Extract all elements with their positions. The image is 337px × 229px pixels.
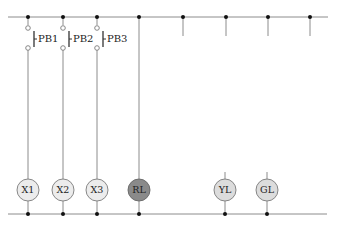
switch-terminal-icon [95,26,100,31]
node-dot-icon [223,212,227,216]
switch-label-pb3: PB3 [107,34,127,44]
node-dot-icon [137,15,141,19]
node-dot-icon [137,212,141,216]
switch-terminal-icon [26,46,31,51]
switch-terminal-icon [61,46,66,51]
load-label-x3: X3 [86,185,108,195]
switch-terminal-icon [95,46,100,51]
switch-label-pb1: PB1 [38,34,58,44]
load-label-x1: X1 [17,185,39,195]
load-label-gl: GL [256,185,278,195]
node-dot-icon [26,15,30,19]
node-dot-icon [95,212,99,216]
open-stubs-top [181,15,312,36]
node-dot-icon [61,212,65,216]
switch-terminal-icon [61,26,66,31]
node-dot-icon [308,15,312,19]
node-dot-icon [265,212,269,216]
load-label-rl: RL [128,185,150,195]
load-label-x2: X2 [52,185,74,195]
node-dot-icon [181,15,185,19]
node-dot-icon [224,15,228,19]
switch-terminal-icon [26,26,31,31]
node-dot-icon [26,212,30,216]
node-dot-icon [61,15,65,19]
node-dot-icon [266,15,270,19]
node-dot-icon [95,15,99,19]
load-label-yl: YL [214,185,236,195]
switch-label-pb2: PB2 [73,34,93,44]
